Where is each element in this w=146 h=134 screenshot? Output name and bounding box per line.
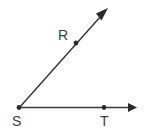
arrowhead-st-icon	[128, 103, 137, 112]
point-dot-r	[74, 41, 79, 46]
point-label-s: S	[12, 113, 21, 129]
vertex-dot-s	[17, 105, 22, 110]
point-label-t: T	[100, 113, 109, 129]
geometry-canvas: S R T	[0, 0, 146, 134]
point-dot-t	[102, 105, 107, 110]
angle-diagram-figure: S R T	[0, 0, 146, 134]
point-label-r: R	[58, 27, 68, 43]
